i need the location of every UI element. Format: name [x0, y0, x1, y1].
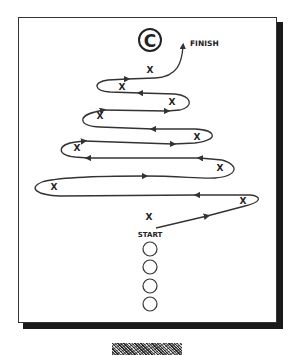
x-marker: X	[169, 97, 176, 107]
x-marker: X	[97, 111, 104, 121]
finish-label: FINISH	[190, 39, 219, 48]
start-circle	[143, 242, 157, 256]
start-circles	[143, 242, 157, 311]
x-marker: X	[194, 132, 201, 142]
badge-letter: C	[144, 31, 156, 51]
x-marker: X	[217, 163, 224, 173]
circle-letter-icon: C	[139, 29, 161, 51]
x-marker: X	[51, 182, 58, 192]
x-marker: X	[147, 65, 154, 75]
x-marker: X	[74, 143, 81, 153]
x-marker: X	[240, 196, 247, 206]
start-label: START	[138, 231, 163, 239]
x-marker: X	[119, 82, 126, 92]
noise-pattern	[112, 343, 182, 355]
drill-diagram: C FINISH X X	[0, 0, 295, 356]
start-circle	[143, 260, 157, 274]
start-circle	[143, 279, 157, 293]
x-marker: X	[146, 212, 153, 222]
start-circle	[143, 297, 157, 311]
